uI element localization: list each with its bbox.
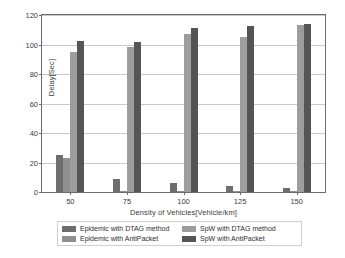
legend: Epidemic with DTAG methodSpW with DTAG m… [57,221,302,246]
legend-swatch-icon [182,236,196,242]
x-tick-mark [184,192,185,195]
bar [77,41,84,192]
bar [290,191,297,192]
bar [297,25,304,192]
bar [191,28,198,192]
plot-area: 020406080100120 5075100125150 Delay[Sec] [41,14,326,193]
legend-swatch-icon [62,236,76,242]
x-tick-mark [297,192,298,195]
y-tick-mark [39,45,42,46]
bar [283,188,290,192]
bar [63,158,70,192]
y-tick-label: 120 [25,11,38,20]
bar [233,191,240,192]
y-tick-mark [39,192,42,193]
legend-entry[interactable]: Epidemic with DTAG method [62,225,180,233]
x-tick-label: 150 [290,197,303,206]
y-tick-label: 100 [25,40,38,49]
y-tick-label: 0 [34,188,38,197]
x-tick-label: 50 [66,197,74,206]
x-axis-label: Density of Vehicles[Vehicle/km] [41,208,326,217]
bar [170,183,177,192]
bar [134,42,141,192]
legend-label: SpW with DTAG method [200,225,276,233]
y-tick-label: 60 [30,99,38,108]
legend-label: Epidemic with AntiPacket [80,235,158,243]
legend-entry[interactable]: SpW with AntiPacket [182,235,297,243]
x-tick-label: 125 [234,197,247,206]
bar [247,26,254,192]
y-tick-mark [39,74,42,75]
bar [127,47,134,192]
bar [70,52,77,192]
legend-entry[interactable]: SpW with DTAG method [182,225,297,233]
bar [304,24,311,192]
x-tick-mark [240,192,241,195]
y-tick-mark [39,104,42,105]
bar-chart-figure: 020406080100120 5075100125150 Delay[Sec]… [0,0,345,258]
y-tick-mark [39,133,42,134]
legend-label: Epidemic with DTAG method [80,225,169,233]
legend-label: SpW with AntiPacket [200,235,265,243]
bar [56,155,63,192]
bar [184,34,191,192]
y-tick-label: 20 [30,158,38,167]
y-tick-label: 80 [30,70,38,79]
bar [240,37,247,192]
legend-entry[interactable]: Epidemic with AntiPacket [62,235,180,243]
x-tick-mark [70,192,71,195]
bar [113,179,120,192]
x-tick-mark [127,192,128,195]
y-tick-mark [39,163,42,164]
y-axis-label: Delay[Sec] [47,43,56,113]
y-tick-mark [39,15,42,16]
bar [177,191,184,192]
bar [120,191,127,192]
bar [226,186,233,192]
legend-swatch-icon [182,226,196,232]
y-tick-label: 40 [30,129,38,138]
legend-swatch-icon [62,226,76,232]
gridline [42,15,325,16]
x-tick-label: 75 [123,197,131,206]
x-tick-label: 100 [177,197,190,206]
